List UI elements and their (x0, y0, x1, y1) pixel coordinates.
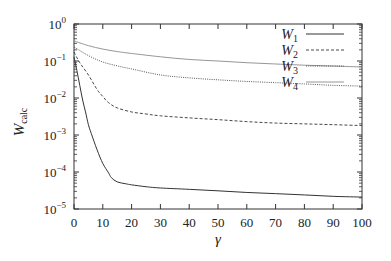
data-series (74, 41, 362, 197)
x-axis-ticks: 0102030405060708090100 (71, 24, 372, 230)
x-tick-label: 0 (71, 215, 78, 230)
x-tick-label: 80 (298, 215, 311, 230)
x-axis-label: γ (215, 231, 222, 247)
series-w4 (74, 41, 362, 67)
y-tick-label: 10−3 (43, 126, 66, 143)
x-tick-label: 10 (96, 215, 109, 230)
y-axis-ticks: 10010−110−210−310−410−5 (43, 15, 362, 217)
y-axis-label: Wcalc (11, 107, 29, 136)
x-tick-label: 40 (183, 215, 196, 230)
series-w1 (74, 57, 362, 197)
x-tick-label: 100 (352, 215, 372, 230)
x-tick-label: 50 (212, 215, 225, 230)
y-tick-label: 10−5 (43, 200, 66, 217)
legend-label-w2: W2 (281, 43, 298, 60)
y-tick-label: 10−1 (43, 52, 66, 69)
y-tick-label: 10−4 (43, 163, 66, 180)
x-tick-label: 30 (154, 215, 167, 230)
x-tick-label: 60 (240, 215, 253, 230)
y-tick-label: 100 (49, 15, 67, 32)
y-tick-label: 10−2 (43, 89, 66, 106)
legend-label-w3: W3 (281, 59, 298, 76)
legend-label-w4: W4 (281, 75, 298, 92)
x-tick-label: 20 (125, 215, 138, 230)
series-w2 (74, 52, 362, 126)
legend-label-w1: W1 (281, 27, 298, 44)
chart: 10010−110−210−310−410−5 0102030405060708… (0, 0, 391, 261)
x-tick-label: 90 (327, 215, 340, 230)
legend: W1W2W3W4 (281, 27, 344, 92)
svg-text:Wcalc: Wcalc (11, 107, 29, 136)
x-tick-label: 70 (269, 215, 282, 230)
series-w3 (74, 47, 362, 86)
